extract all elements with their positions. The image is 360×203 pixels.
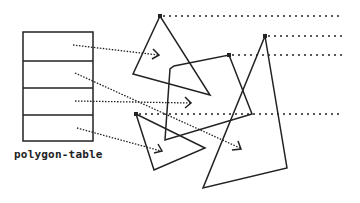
quadrilateral-middle xyxy=(165,55,252,140)
table-label: polygon-table xyxy=(14,148,103,161)
triangle-large-right xyxy=(203,36,287,188)
arrow-head-icon xyxy=(152,49,159,59)
polygon-table xyxy=(23,32,93,141)
triangle-top-left xyxy=(133,16,210,95)
vertex-marker xyxy=(227,53,231,57)
pointer-arrow-row-2 xyxy=(75,73,240,148)
table-frame xyxy=(23,32,93,141)
vertex-marker xyxy=(263,34,267,38)
arrow-head-icon xyxy=(185,97,191,108)
triangle-bottom-left xyxy=(136,114,205,170)
arrow-head-icon xyxy=(154,144,162,153)
vertex-marker xyxy=(158,14,162,18)
vertex-marker xyxy=(134,112,138,116)
diagram-canvas xyxy=(0,0,360,203)
